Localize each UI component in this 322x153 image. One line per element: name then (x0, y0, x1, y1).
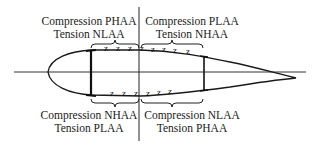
svg-text:z: z (186, 46, 190, 56)
label-upper-aft-compression: Compression PLAA (145, 15, 239, 27)
svg-text:z: z (134, 88, 138, 98)
airfoil-outline (48, 50, 296, 96)
svg-text:z: z (110, 88, 114, 98)
label-lower-forward-tension: Tension PLAA (54, 122, 123, 134)
upper-skin-buckles: zzz zzz zz (104, 43, 190, 56)
svg-text:z: z (146, 88, 150, 98)
rear-spar (200, 56, 208, 91)
svg-text:z: z (168, 86, 172, 96)
brace-lower-aft (141, 99, 203, 107)
label-lower-aft-compression: Compression NLAA (144, 109, 240, 121)
label-upper-forward-compression: Compression PHAA (42, 15, 137, 27)
brace-lower-forward (91, 99, 139, 107)
front-spar (86, 50, 96, 96)
label-upper-aft-tension: Tension NHAA (156, 28, 228, 40)
label-lower-forward-compression: Compression NHAA (41, 109, 138, 121)
label-upper-forward-tension: Tension NLAA (53, 28, 124, 40)
svg-text:z: z (157, 87, 161, 97)
svg-text:z: z (162, 44, 166, 54)
svg-text:z: z (173, 45, 177, 55)
svg-text:z: z (151, 44, 155, 54)
svg-text:z: z (122, 88, 126, 98)
label-lower-aft-tension: Tension PHAA (157, 122, 227, 134)
